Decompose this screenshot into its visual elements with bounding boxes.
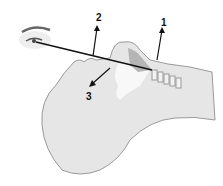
arrow-1 xyxy=(157,30,162,60)
head-profile xyxy=(42,42,215,174)
eye-icon xyxy=(19,27,51,49)
anatomy-diagram xyxy=(0,0,223,186)
label-1: 1 xyxy=(161,18,167,28)
arrow-2 xyxy=(93,28,97,56)
label-3: 3 xyxy=(86,92,92,102)
label-2: 2 xyxy=(96,13,102,23)
arrowhead-2 xyxy=(94,25,100,31)
